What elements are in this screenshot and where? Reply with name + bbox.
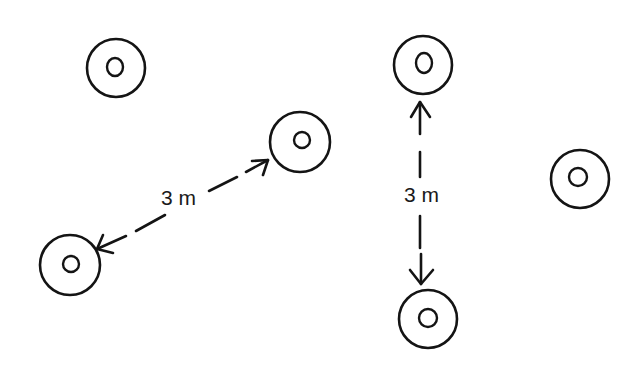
spacing-diagram: 3 m 3 m [0,0,639,370]
diagonal-distance-label: 3 m [161,186,196,209]
ring-marker-5 [399,290,457,348]
ring-marker-3 [40,235,100,295]
ring-marker-2 [270,112,330,172]
vertical-distance-label: 3 m [404,183,439,206]
ring-marker-4 [394,36,452,94]
ring-marker-6 [551,150,609,208]
ring-marker-1 [87,39,145,97]
